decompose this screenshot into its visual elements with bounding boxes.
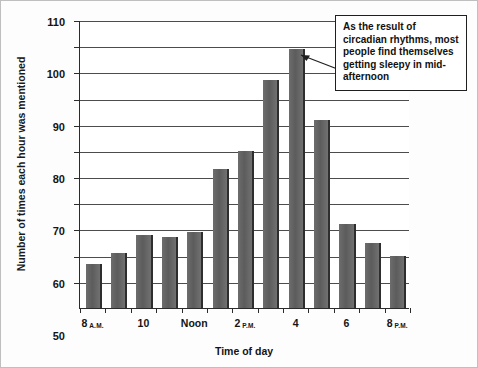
bar — [111, 253, 125, 308]
y-axis-tick-label: 80 — [53, 173, 65, 185]
x-axis-tick — [334, 308, 335, 313]
x-axis-tick-label: 2 P.M. — [234, 317, 255, 329]
bar — [86, 264, 100, 309]
bar — [136, 235, 150, 308]
bar — [289, 49, 303, 308]
x-axis-tick-label: 8 A.M. — [82, 317, 104, 329]
bar — [238, 151, 252, 308]
x-axis-tick — [410, 308, 411, 313]
y-axis-tick-label: 90 — [53, 121, 65, 133]
y-axis-tick-label: 70 — [53, 225, 65, 237]
y-axis-title: Number of times each hour was mentioned — [15, 0, 31, 19]
x-axis-tick-label: Noon — [181, 317, 208, 329]
x-axis-tick — [182, 308, 183, 313]
x-axis-tick-label: 10 — [138, 317, 150, 329]
x-axis-tick — [385, 308, 386, 313]
y-axis-tick-label: 100 — [47, 68, 65, 80]
annotation-textbox: As the result of circadian rhythms, most… — [335, 15, 467, 91]
x-axis-tick — [131, 308, 132, 313]
x-axis-tick — [258, 308, 259, 313]
y-axis-tick-label: 50 — [53, 330, 65, 342]
bar — [263, 80, 277, 308]
x-axis-title: Time of day — [79, 345, 409, 357]
bar — [365, 243, 379, 308]
x-axis-tick-label: 4 — [293, 317, 299, 329]
y-axis-tick-label: 110 — [47, 16, 65, 28]
annotation-leader-arrow-icon — [293, 49, 341, 75]
x-axis-tick — [105, 308, 106, 313]
x-axis-tick — [283, 308, 284, 313]
bar — [213, 169, 227, 308]
x-axis-tick-label: 6 — [344, 317, 350, 329]
bar — [162, 237, 176, 308]
x-axis-tick — [308, 308, 309, 313]
y-axis-tick-label: 60 — [53, 278, 65, 290]
x-axis-tick — [232, 308, 233, 313]
x-axis-tick-label: 8 P.M. — [387, 317, 408, 329]
y-axis-title-text: Number of times each hour was mentioned — [15, 19, 27, 309]
x-axis-tick — [359, 308, 360, 313]
bar — [314, 120, 328, 309]
x-axis-tick — [207, 308, 208, 313]
bar — [339, 224, 353, 308]
x-axis-tick — [156, 308, 157, 313]
bar — [390, 256, 404, 308]
x-axis-tick — [80, 308, 81, 313]
bar — [187, 232, 201, 308]
bar-chart-figure: Number of times each hour was mentioned … — [0, 0, 478, 368]
